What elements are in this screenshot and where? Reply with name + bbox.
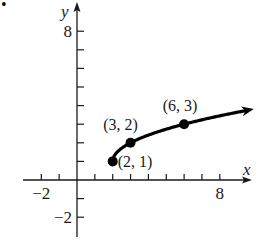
y-tick-label: −2 <box>54 208 72 227</box>
y-tick-label: 8 <box>64 22 73 41</box>
x-tick-label: −2 <box>32 184 50 203</box>
point-marker <box>126 138 136 148</box>
function-graph: −288−2 (2, 1)(3, 2)(6, 3) x y <box>0 0 261 240</box>
point-marker <box>108 156 118 166</box>
point-label: (6, 3) <box>163 97 198 115</box>
point-marker <box>179 119 189 129</box>
x-axis-label: x <box>242 160 251 179</box>
x-tick-label: 8 <box>216 184 225 203</box>
y-axis-label: y <box>59 2 69 21</box>
point-label: (3, 2) <box>103 116 138 134</box>
point-label: (2, 1) <box>118 153 153 171</box>
axis-labels: x y <box>59 2 251 179</box>
